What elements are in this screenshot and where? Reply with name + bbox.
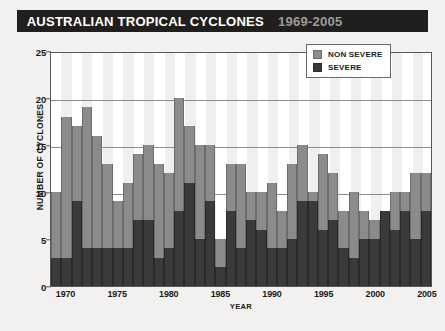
x-tick-label: 1980: [159, 289, 178, 299]
bar-segment-severe: [61, 258, 71, 286]
bar-segment-severe: [215, 267, 225, 286]
bar-segment-non-severe: [102, 164, 112, 249]
bar-column: [410, 53, 420, 286]
bar-column: [400, 53, 410, 286]
bar-column: [236, 53, 246, 286]
bar-column: [184, 53, 194, 286]
bar-segment-severe: [338, 248, 348, 286]
bar-segment-severe: [267, 248, 277, 286]
bar-column: [338, 53, 348, 286]
bar-column: [154, 53, 164, 286]
bar-segment-severe: [113, 248, 123, 286]
y-tick-label: 10: [22, 188, 46, 199]
bar-column: [308, 53, 318, 286]
bar-segment-non-severe: [328, 173, 338, 220]
bar-segment-severe: [308, 201, 318, 286]
bar-segment-severe: [195, 239, 205, 286]
bar-segment-severe: [164, 248, 174, 286]
bar-segment-non-severe: [92, 136, 102, 249]
bar-segment-non-severe: [267, 183, 277, 249]
bar-column: [143, 53, 153, 286]
bar-segment-non-severe: [174, 98, 184, 211]
bar-segment-severe: [380, 211, 390, 286]
bar-column: [421, 53, 431, 286]
bar-segment-severe: [226, 211, 236, 286]
legend-label-non-severe: NON SEVERE: [328, 50, 382, 59]
bar-segment-non-severe: [154, 164, 164, 258]
bar-segment-non-severe: [61, 117, 71, 258]
x-tick-label: 1975: [107, 289, 126, 299]
bar-segment-severe: [400, 211, 410, 286]
bar-segment-non-severe: [349, 192, 359, 258]
bar-segment-severe: [328, 220, 338, 286]
y-axis-ticks: 0510152025: [17, 52, 46, 287]
legend-label-severe: SEVERE: [328, 63, 362, 72]
bar-segment-non-severe: [308, 192, 318, 201]
bar-segment-non-severe: [82, 107, 92, 248]
bar-column: [277, 53, 287, 286]
x-tick-label: 1985: [211, 289, 230, 299]
x-tick-label: 2005: [417, 289, 436, 299]
bar-series: [51, 53, 431, 286]
bar-column: [287, 53, 297, 286]
page-title: AUSTRALIAN TROPICAL CYCLONES: [17, 14, 264, 29]
bar-segment-non-severe: [236, 164, 246, 249]
bar-segment-non-severe: [184, 126, 194, 182]
bar-segment-severe: [359, 239, 369, 286]
legend: NON SEVERE SEVERE: [306, 44, 391, 78]
bar-segment-non-severe: [215, 239, 225, 267]
bar-column: [133, 53, 143, 286]
bar-segment-non-severe: [51, 192, 61, 258]
x-axis-label: YEAR: [50, 302, 432, 311]
bar-segment-non-severe: [133, 154, 143, 220]
bar-segment-non-severe: [226, 164, 236, 211]
bar-column: [195, 53, 205, 286]
bar-column: [215, 53, 225, 286]
bar-segment-severe: [390, 230, 400, 286]
chart-page: AUSTRALIAN TROPICAL CYCLONES 1969-2005 N…: [0, 0, 445, 331]
bar-segment-severe: [246, 220, 256, 286]
bar-segment-severe: [184, 183, 194, 286]
bar-column: [369, 53, 379, 286]
bar-segment-non-severe: [205, 145, 215, 201]
bar-column: [92, 53, 102, 286]
bar-segment-severe: [154, 258, 164, 286]
bar-column: [297, 53, 307, 286]
bar-segment-non-severe: [359, 211, 369, 239]
x-tick-label: 1990: [262, 289, 281, 299]
bar-segment-severe: [133, 220, 143, 286]
y-tick-label: 0: [22, 282, 46, 293]
x-tick-label: 1970: [56, 289, 75, 299]
bar-segment-severe: [174, 211, 184, 286]
bar-segment-severe: [369, 239, 379, 286]
bar-segment-severe: [256, 230, 266, 286]
bar-segment-non-severe: [390, 192, 400, 230]
bar-segment-severe: [51, 258, 61, 286]
bar-segment-non-severe: [256, 192, 266, 230]
bar-column: [267, 53, 277, 286]
bar-segment-non-severe: [338, 211, 348, 249]
bar-segment-severe: [72, 201, 82, 286]
bar-segment-non-severe: [287, 164, 297, 239]
bar-segment-severe: [92, 248, 102, 286]
bar-column: [349, 53, 359, 286]
plot-area: [50, 52, 432, 287]
bar-segment-severe: [123, 248, 133, 286]
bar-column: [226, 53, 236, 286]
non-severe-swatch-icon: [313, 50, 322, 59]
bar-segment-severe: [421, 211, 431, 286]
bar-segment-severe: [318, 230, 328, 286]
bar-segment-non-severe: [318, 154, 328, 229]
bar-column: [205, 53, 215, 286]
bar-segment-non-severe: [72, 126, 82, 201]
bar-segment-severe: [297, 201, 307, 286]
y-tick-label: 15: [22, 141, 46, 152]
bar-column: [51, 53, 61, 286]
bar-column: [380, 53, 390, 286]
bar-segment-severe: [236, 248, 246, 286]
y-tick-label: 20: [22, 94, 46, 105]
bar-segment-non-severe: [123, 183, 133, 249]
bar-segment-non-severe: [421, 173, 431, 211]
bar-column: [174, 53, 184, 286]
bar-column: [390, 53, 400, 286]
